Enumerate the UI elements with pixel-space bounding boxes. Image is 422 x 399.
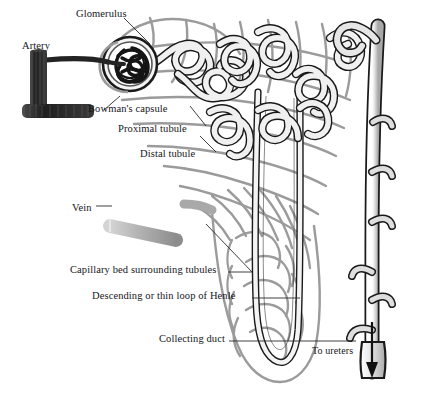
label-distal-tubule: Distal tubule (140, 148, 195, 160)
figure-caption (28, 389, 398, 399)
label-bowmans-capsule: Bowman's capsule (88, 103, 168, 115)
label-capillary-bed: Capillary bed surrounding tubules (70, 264, 217, 276)
label-loop-of-henle: Descending or thin loop of Henle (92, 290, 235, 302)
label-artery: Artery (22, 40, 50, 52)
label-collecting-duct: Collecting duct (159, 333, 225, 345)
label-proximal-tubule: Proximal tubule (118, 123, 187, 135)
label-to-ureters: To ureters (312, 345, 353, 356)
label-glomerulus: Glomerulus (76, 8, 127, 20)
label-vein: Vein (72, 202, 92, 214)
